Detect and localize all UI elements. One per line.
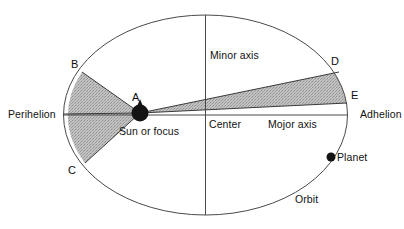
point-label-b: B	[71, 59, 78, 70]
major-axis-label: Mojor axis	[268, 119, 317, 130]
point-label-c: C	[68, 165, 76, 176]
point-label-d: D	[331, 56, 339, 67]
planet-dot	[327, 153, 336, 162]
point-label-a: A	[132, 92, 139, 103]
point-label-e: E	[351, 90, 358, 101]
planet-label: Planet	[337, 152, 367, 163]
orbit-diagram: Perihelion Adhelion Minor axis Mojor axi…	[0, 0, 404, 229]
center-label: Center	[209, 119, 241, 130]
sun-or-focus-label: Sun or focus	[119, 126, 179, 137]
perihelion-label: Perihelion	[8, 109, 56, 120]
adhelion-label: Adhelion	[360, 109, 402, 120]
left-sector-shading	[68, 72, 140, 163]
minor-axis-label: Minor axis	[210, 50, 259, 61]
orbit-diagram-canvas	[0, 0, 404, 229]
orbit-label: Orbit	[295, 194, 318, 205]
